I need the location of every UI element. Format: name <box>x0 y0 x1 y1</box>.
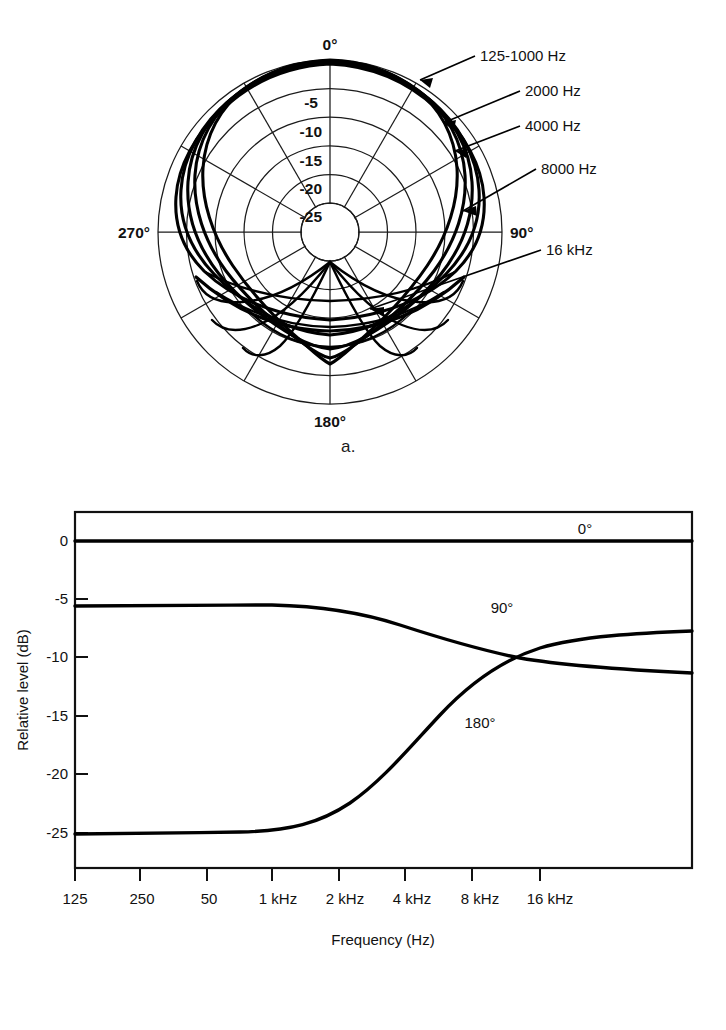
y-axis-ticks <box>75 541 88 833</box>
ytick-label-m15: -15 <box>46 707 68 724</box>
ytick-label-m25: -25 <box>46 824 68 841</box>
curve-180deg <box>75 631 692 834</box>
leader-2000hz <box>443 91 520 123</box>
radial-label-20: -20 <box>300 180 322 197</box>
xtick-label-8khz: 8 kHz <box>461 890 499 907</box>
radial-label-5: -5 <box>304 94 318 111</box>
frequency-response-chart-panel: 0 -5 -10 -15 -20 -25 125 250 <box>0 485 726 1030</box>
xtick-label-1khz: 1 kHz <box>259 890 297 907</box>
curve-label-2000hz: 2000 Hz <box>525 82 581 99</box>
radial-label-10: -10 <box>300 123 322 140</box>
ytick-label-m5: -5 <box>55 590 68 607</box>
angle-label-180: 180° <box>314 413 346 430</box>
plot-frame <box>75 512 692 868</box>
curve-label-125-1000hz: 125-1000 Hz <box>480 47 566 64</box>
series-annotations: 0° 90° 180° <box>464 520 592 731</box>
xtick-label-250: 250 <box>129 890 154 907</box>
frequency-response-svg: 0 -5 -10 -15 -20 -25 125 250 <box>0 485 726 1030</box>
series-label-90deg: 90° <box>491 599 514 616</box>
angle-label-90: 90° <box>510 224 533 241</box>
leader-16khz <box>370 250 541 309</box>
xtick-label-4khz: 4 kHz <box>393 890 431 907</box>
polar-chart-svg: -5 -10 -15 -20 -25 0° 90° 180° 270° <box>0 0 726 485</box>
angle-label-0: 0° <box>323 36 338 53</box>
angle-label-270: 270° <box>118 224 150 241</box>
x-axis-ticks <box>75 868 540 881</box>
y-axis-title: Relative level (dB) <box>14 629 31 751</box>
leader-4000hz <box>455 126 520 151</box>
response-curves <box>75 541 692 834</box>
curve-label-16khz: 16 kHz <box>546 241 593 258</box>
figure-container: -5 -10 -15 -20 -25 0° 90° 180° 270° <box>0 0 726 1030</box>
curve-label-8000hz: 8000 Hz <box>541 160 597 177</box>
series-label-180deg: 180° <box>464 714 495 731</box>
ytick-label-m20: -20 <box>46 765 68 782</box>
y-axis-tick-labels: 0 -5 -10 -15 -20 -25 <box>46 532 68 841</box>
xtick-label-2khz: 2 kHz <box>326 890 364 907</box>
xtick-label-500: 50 <box>201 890 218 907</box>
xtick-label-16khz: 16 kHz <box>527 890 574 907</box>
polar-chart-panel: -5 -10 -15 -20 -25 0° 90° 180° 270° <box>0 0 726 485</box>
radial-label-15: -15 <box>300 152 323 169</box>
panel-a-caption: a. <box>341 437 356 457</box>
ytick-label-0: 0 <box>60 532 68 549</box>
polar-grid <box>158 60 502 404</box>
x-axis-tick-labels: 125 250 50 1 kHz 2 kHz 4 kHz 8 kHz 16 kH… <box>62 890 573 907</box>
curve-label-4000hz: 4000 Hz <box>525 117 581 134</box>
leader-125-1000hz <box>420 56 475 80</box>
ytick-label-m10: -10 <box>46 648 68 665</box>
curve-90deg <box>75 605 692 673</box>
radial-label-25: -25 <box>300 208 323 225</box>
x-axis-title: Frequency (Hz) <box>331 931 434 948</box>
xtick-label-125: 125 <box>62 890 87 907</box>
series-label-0deg: 0° <box>578 520 592 537</box>
